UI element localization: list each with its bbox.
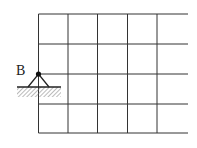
ground-hatch	[17, 87, 61, 97]
label-b: B	[16, 63, 25, 78]
node-b-dot	[36, 71, 41, 76]
grid-diagram: B	[0, 0, 197, 148]
grid-horizontal-lines	[39, 14, 189, 133]
